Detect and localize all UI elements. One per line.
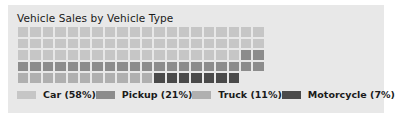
waffle-cell (228, 38, 240, 50)
waffle-cell (203, 72, 215, 84)
waffle-cell (129, 49, 141, 61)
waffle-cell (141, 26, 153, 38)
waffle-cell (228, 61, 240, 73)
waffle-cell (116, 38, 128, 50)
waffle-cell (42, 26, 54, 38)
waffle-cell (203, 49, 215, 61)
waffle-cell (178, 61, 190, 73)
waffle-cell (166, 61, 178, 73)
waffle-cell (67, 72, 79, 84)
waffle-chart-card: Vehicle Sales by Vehicle Type Car (58%)P… (8, 5, 384, 113)
waffle-cell (153, 72, 165, 84)
waffle-cell (190, 72, 202, 84)
waffle-cell (166, 72, 178, 84)
waffle-cell (252, 38, 264, 50)
waffle-cell (29, 26, 41, 38)
legend-entry: Motorcycle (7%) (282, 89, 395, 100)
waffle-cell (104, 26, 116, 38)
chart-title: Vehicle Sales by Vehicle Type (17, 12, 173, 24)
legend-entry: Car (58%) (17, 89, 96, 100)
waffle-cell (54, 72, 66, 84)
legend-swatch-icon (17, 91, 36, 99)
waffle-cell (79, 61, 91, 73)
waffle-cell (252, 26, 264, 38)
waffle-cell (153, 49, 165, 61)
waffle-cell (129, 72, 141, 84)
waffle-cell (17, 38, 29, 50)
waffle-cell (54, 61, 66, 73)
waffle-cell (79, 26, 91, 38)
waffle-cell (91, 72, 103, 84)
waffle-cell (240, 61, 252, 73)
waffle-cell (91, 61, 103, 73)
waffle-cell (228, 72, 240, 84)
waffle-cell (67, 49, 79, 61)
waffle-cell (79, 38, 91, 50)
legend-entry: Truck (11%) (192, 89, 282, 100)
waffle-cell (67, 61, 79, 73)
waffle-cell (104, 38, 116, 50)
waffle-cell (29, 72, 41, 84)
waffle-cell (141, 61, 153, 73)
waffle-cell (29, 49, 41, 61)
legend-swatch-icon (282, 91, 301, 99)
waffle-cell (190, 61, 202, 73)
waffle-cell (215, 49, 227, 61)
waffle-grid (17, 26, 265, 84)
waffle-cell (153, 38, 165, 50)
waffle-cell (79, 72, 91, 84)
legend-label: Truck (11%) (218, 89, 282, 100)
waffle-cell (215, 38, 227, 50)
legend-label: Car (58%) (43, 89, 96, 100)
waffle-cell (91, 38, 103, 50)
waffle-cell (42, 61, 54, 73)
waffle-cell (178, 72, 190, 84)
waffle-cell-empty (240, 72, 252, 84)
waffle-cell (129, 61, 141, 73)
chart-legend: Car (58%)Pickup (21%)Truck (11%)Motorcyc… (17, 89, 375, 100)
waffle-cell (54, 49, 66, 61)
waffle-cell (215, 72, 227, 84)
waffle-cell (29, 61, 41, 73)
waffle-cell (141, 49, 153, 61)
waffle-cell (240, 49, 252, 61)
waffle-cell (17, 26, 29, 38)
waffle-cell (252, 49, 264, 61)
legend-label: Motorcycle (7%) (308, 89, 395, 100)
waffle-cell (91, 49, 103, 61)
waffle-cell (17, 61, 29, 73)
waffle-cell (252, 61, 264, 73)
waffle-cell (203, 38, 215, 50)
waffle-cell (228, 26, 240, 38)
waffle-cell (67, 26, 79, 38)
waffle-cell (42, 72, 54, 84)
waffle-cell (116, 26, 128, 38)
waffle-cell (141, 38, 153, 50)
waffle-cell (215, 61, 227, 73)
waffle-cell (178, 38, 190, 50)
waffle-cell (129, 26, 141, 38)
waffle-cell (91, 26, 103, 38)
waffle-cell (153, 26, 165, 38)
waffle-cell (240, 38, 252, 50)
waffle-cell (104, 61, 116, 73)
waffle-cell (67, 38, 79, 50)
waffle-cell (190, 38, 202, 50)
waffle-cell (104, 49, 116, 61)
waffle-cell (215, 26, 227, 38)
waffle-cell (190, 26, 202, 38)
waffle-cell (54, 26, 66, 38)
waffle-cell (42, 49, 54, 61)
waffle-cell (17, 49, 29, 61)
legend-swatch-icon (96, 91, 115, 99)
waffle-cell (166, 38, 178, 50)
waffle-cell (203, 26, 215, 38)
waffle-cell (166, 26, 178, 38)
waffle-cell (116, 61, 128, 73)
waffle-cell (178, 49, 190, 61)
waffle-cell (178, 26, 190, 38)
waffle-cell (228, 49, 240, 61)
waffle-cell (42, 38, 54, 50)
waffle-cell (116, 49, 128, 61)
waffle-cell (166, 49, 178, 61)
